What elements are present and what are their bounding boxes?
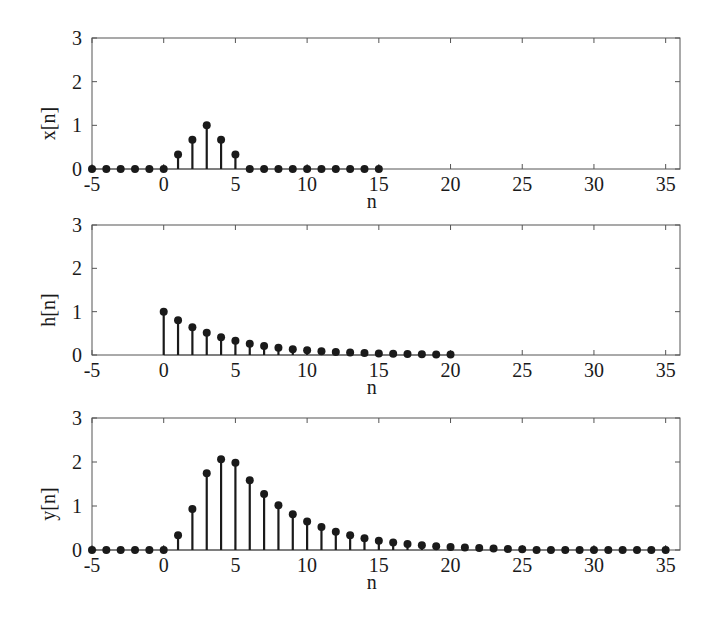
stem-marker [375, 537, 383, 545]
stem-marker [662, 546, 670, 554]
stem-marker [447, 350, 455, 358]
y-tick-label: 1 [72, 114, 82, 136]
stem-marker [260, 165, 268, 173]
stem-marker [375, 165, 383, 173]
stem-marker [604, 546, 612, 554]
stem-marker [404, 350, 412, 358]
stem-marker [231, 150, 239, 158]
stem-marker [418, 541, 426, 549]
y-tick-label: 3 [72, 27, 82, 49]
stem-marker [102, 165, 110, 173]
x-tick-label: 25 [512, 554, 532, 576]
stem-marker [289, 345, 297, 353]
plot-y: -5051015202530350123ny[n] [0, 380, 714, 622]
stem-marker [289, 510, 297, 518]
stem-marker [590, 546, 598, 554]
stem-marker [533, 546, 541, 554]
stem-marker [447, 543, 455, 551]
stem-marker [561, 546, 569, 554]
stem-marker [432, 542, 440, 550]
stem-marker [346, 165, 354, 173]
x-tick-label: 0 [159, 554, 169, 576]
x-tick-label: 5 [230, 359, 240, 381]
stem-marker [203, 469, 211, 477]
stem-marker [217, 136, 225, 144]
stem-marker [217, 333, 225, 341]
stem-marker [303, 165, 311, 173]
stem-marker [418, 350, 426, 358]
stem-marker [217, 455, 225, 463]
stem-marker [188, 136, 196, 144]
y-tick-label: 0 [72, 158, 82, 180]
x-tick-label: -5 [84, 359, 101, 381]
x-tick-label: 35 [656, 359, 676, 381]
stem-marker [231, 459, 239, 467]
stem-marker [203, 329, 211, 337]
stem-marker [303, 346, 311, 354]
y-tick-label: 2 [72, 71, 82, 93]
x-tick-label: 30 [584, 554, 604, 576]
stem-marker [246, 476, 254, 484]
y-tick-label: 2 [72, 257, 82, 279]
stem-marker [145, 546, 153, 554]
stem-marker [303, 517, 311, 525]
stem-marker [576, 546, 584, 554]
stem-marker [404, 540, 412, 548]
stem-marker [160, 165, 168, 173]
stem-marker [619, 546, 627, 554]
stem-marker [231, 337, 239, 345]
plot-x: -5051015202530350123nx[n] [0, 0, 714, 210]
x-tick-label: 10 [297, 359, 317, 381]
x-tick-label: 10 [297, 554, 317, 576]
stem-marker [432, 350, 440, 358]
stem-marker [160, 308, 168, 316]
stem-marker [174, 316, 182, 324]
stem-marker [131, 165, 139, 173]
stem-marker [188, 323, 196, 331]
stem-marker [174, 150, 182, 158]
stem-marker [332, 348, 340, 356]
stem-marker [475, 544, 483, 552]
stem-marker [346, 531, 354, 539]
x-tick-label: 25 [512, 359, 532, 381]
stem-marker [274, 501, 282, 509]
y-tick-label: 0 [72, 539, 82, 561]
stem-marker [317, 347, 325, 355]
stem-marker [518, 545, 526, 553]
stem-marker [174, 531, 182, 539]
plot-h: -5051015202530350123nh[n] [0, 187, 714, 397]
stem-marker [332, 528, 340, 536]
y-tick-label: 2 [72, 451, 82, 473]
stem-marker [117, 165, 125, 173]
stem-marker [389, 350, 397, 358]
stem-marker [88, 546, 96, 554]
stem-marker [246, 165, 254, 173]
stem-marker [160, 546, 168, 554]
stem-chart-h: -5051015202530350123nh[n] [0, 187, 714, 397]
stem-marker [490, 545, 498, 553]
y-axis-label: h[n] [37, 293, 59, 326]
stem-marker [633, 546, 641, 554]
x-tick-label: 5 [230, 554, 240, 576]
y-tick-label: 1 [72, 301, 82, 323]
stem-marker [102, 546, 110, 554]
x-tick-label: 20 [441, 554, 461, 576]
stem-marker [274, 165, 282, 173]
axes-frame [92, 225, 680, 355]
stem-marker [547, 546, 555, 554]
axes-frame [92, 418, 680, 550]
x-tick-label: 20 [441, 359, 461, 381]
y-axis-label: y[n] [37, 487, 60, 520]
stem-marker [504, 545, 512, 553]
stem-marker [203, 121, 211, 129]
y-axis-label: x[n] [37, 107, 59, 140]
stem-marker [131, 546, 139, 554]
stem-marker [88, 165, 96, 173]
x-tick-label: 30 [584, 359, 604, 381]
stem-marker [375, 349, 383, 357]
x-tick-label: 35 [656, 554, 676, 576]
stem-marker [289, 165, 297, 173]
y-tick-label: 0 [72, 344, 82, 366]
stem-marker [360, 349, 368, 357]
stem-marker [360, 534, 368, 542]
